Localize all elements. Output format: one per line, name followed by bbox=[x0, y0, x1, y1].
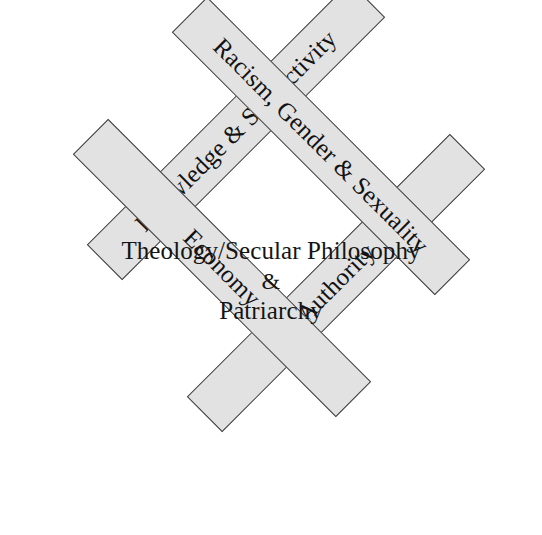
bar-label-economy: Economy bbox=[179, 224, 265, 310]
bar-label-authority: Authority bbox=[291, 238, 379, 326]
diamond-framework-diagram: Knowledge & Subjectivity Authority Racis… bbox=[0, 0, 542, 535]
